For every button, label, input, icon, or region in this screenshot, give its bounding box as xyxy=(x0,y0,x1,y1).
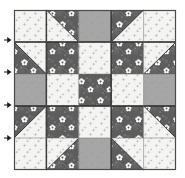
quilt-patch xyxy=(46,74,78,106)
solid-patch xyxy=(46,74,78,106)
quilt-patch xyxy=(144,138,176,170)
quilt-patch xyxy=(79,10,111,42)
solid-patch xyxy=(144,10,176,42)
quilt-patch xyxy=(111,106,143,138)
solid-patch xyxy=(144,138,176,170)
solid-patch xyxy=(79,138,111,170)
solid-patch xyxy=(79,74,111,106)
quilt-patch xyxy=(144,74,176,106)
solid-patch xyxy=(144,74,176,106)
quilt-patch xyxy=(144,106,176,138)
quilt-block-diagram xyxy=(0,0,185,178)
solid-patch xyxy=(14,10,46,42)
quilt-patch xyxy=(111,42,143,74)
solid-patch xyxy=(111,74,143,106)
quilt-patch xyxy=(111,74,143,106)
quilt-patch xyxy=(111,138,143,170)
quilt-patch xyxy=(14,138,46,170)
quilt-patch xyxy=(46,106,78,138)
solid-patch xyxy=(14,74,46,106)
solid-patch xyxy=(79,10,111,42)
quilt-patch xyxy=(46,10,78,42)
quilt-patch xyxy=(14,106,46,138)
solid-patch xyxy=(111,106,143,138)
quilt-patch xyxy=(79,138,111,170)
quilt-patch xyxy=(46,42,78,74)
quilt-patch xyxy=(79,74,111,106)
quilt-patch xyxy=(14,10,46,42)
quilt-patch xyxy=(46,138,78,170)
quilt-patch xyxy=(14,74,46,106)
quilt-patch xyxy=(14,42,46,74)
quilt-patch xyxy=(79,106,111,138)
solid-patch xyxy=(14,138,46,170)
solid-patch xyxy=(46,42,78,74)
solid-patch xyxy=(79,42,111,74)
solid-patch xyxy=(79,106,111,138)
block-grid xyxy=(14,10,176,170)
quilt-patch xyxy=(79,42,111,74)
solid-patch xyxy=(46,106,78,138)
quilt-patch xyxy=(144,10,176,42)
solid-patch xyxy=(111,42,143,74)
quilt-patch xyxy=(111,10,143,42)
quilt-patch xyxy=(144,42,176,74)
